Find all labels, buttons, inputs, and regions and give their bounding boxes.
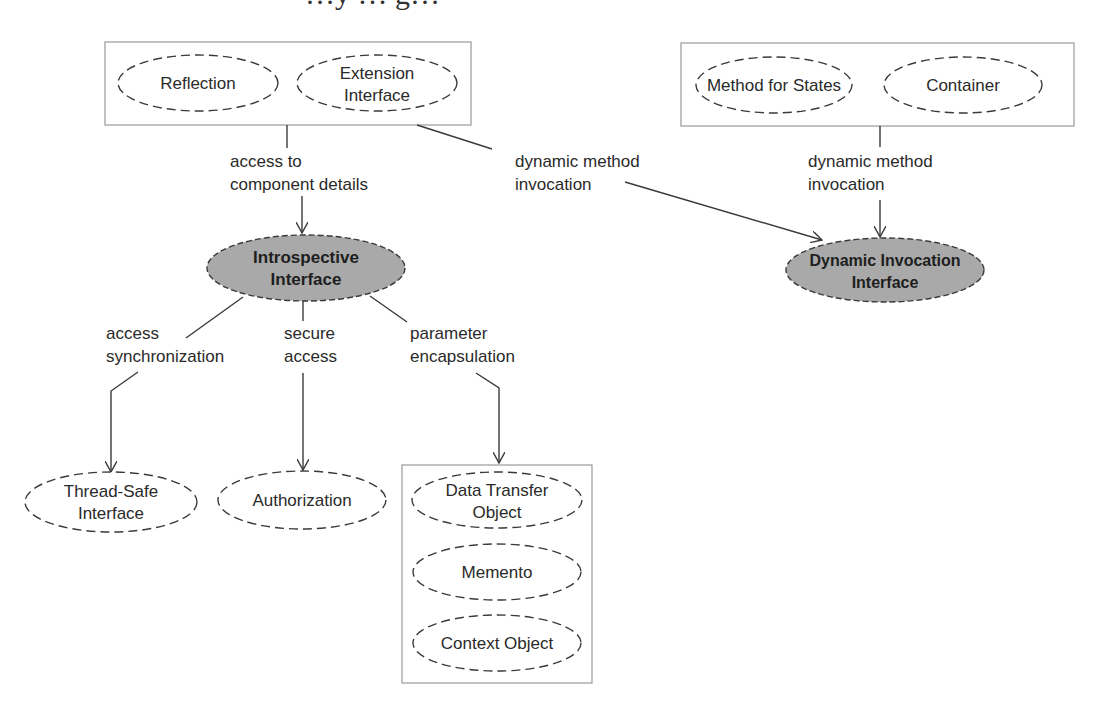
edge-dynamic-method-invocation-left: dynamic method invocation: [417, 125, 822, 240]
node-data-transfer-object[interactable]: Data Transfer Object: [412, 472, 582, 528]
edge-access-to-component-details: access to component details: [230, 125, 368, 233]
node-label: Method for States: [707, 76, 841, 95]
node-dynamic-invocation-interface[interactable]: Dynamic Invocation Interface: [786, 238, 984, 302]
edge-label-line1: dynamic method: [808, 152, 933, 171]
filled-ellipse: [207, 235, 405, 301]
node-extension-interface[interactable]: Extension Interface: [297, 55, 457, 111]
node-label: Reflection: [160, 74, 236, 93]
node-label: Container: [926, 76, 1000, 95]
node-container[interactable]: Container: [884, 57, 1042, 113]
edge-label-line1: parameter: [410, 324, 488, 343]
group-top-right: Method for States Container: [681, 43, 1074, 126]
group-top-left: Reflection Extension Interface: [105, 42, 471, 125]
pattern-relationship-diagram: …y … g… Reflection Extension Interface M…: [0, 0, 1107, 709]
title-fragment: …y … g…: [305, 0, 440, 10]
node-label-line2: Object: [472, 503, 521, 522]
filled-ellipse: [786, 238, 984, 302]
edge-access-synchronization: access synchronization: [106, 297, 243, 472]
edge-label-line2: invocation: [515, 175, 592, 194]
node-introspective-interface[interactable]: Introspective Interface: [207, 235, 405, 301]
edge-label-line2: invocation: [808, 175, 885, 194]
edge-label-line1: secure: [284, 324, 335, 343]
node-label-line2: Interface: [271, 270, 342, 289]
node-label-line1: Dynamic Invocation: [809, 252, 960, 269]
edge-label-line2: component details: [230, 175, 368, 194]
edge-secure-access: secure access: [284, 301, 337, 470]
node-label-line2: Interface: [344, 86, 410, 105]
node-method-for-states[interactable]: Method for States: [696, 57, 852, 113]
node-label-line1: Thread-Safe: [64, 482, 159, 501]
edge-arrow: [111, 372, 138, 472]
edge-line: [417, 125, 492, 149]
node-label: Authorization: [252, 491, 351, 510]
edge-label-line2: access: [284, 347, 337, 366]
edge-label-line1: dynamic method: [515, 152, 640, 171]
node-label-line1: Data Transfer: [446, 481, 549, 500]
node-label: Memento: [462, 563, 533, 582]
edge-parameter-encapsulation: parameter encapsulation: [370, 296, 515, 463]
node-label-line2: Interface: [78, 504, 144, 523]
node-label-line2: Interface: [852, 274, 919, 291]
edge-line: [370, 296, 407, 322]
node-label: Context Object: [441, 634, 554, 653]
node-context-object[interactable]: Context Object: [413, 615, 581, 671]
edge-line: [186, 297, 243, 338]
node-reflection[interactable]: Reflection: [118, 55, 278, 111]
node-label-line1: Introspective: [253, 248, 359, 267]
node-authorization[interactable]: Authorization: [218, 471, 386, 529]
dashed-ellipse: [25, 472, 197, 532]
edge-label-line2: synchronization: [106, 347, 224, 366]
edge-label-line1: access to: [230, 152, 302, 171]
node-memento[interactable]: Memento: [413, 544, 581, 600]
edge-label-line2: encapsulation: [410, 347, 515, 366]
edge-dynamic-method-invocation-right: dynamic method invocation: [808, 126, 933, 237]
edge-arrow: [476, 373, 499, 463]
node-label-line1: Extension: [340, 64, 415, 83]
edge-label-line1: access: [106, 324, 159, 343]
group-bottom-right: Data Transfer Object Memento Context Obj…: [402, 465, 592, 683]
node-thread-safe-interface[interactable]: Thread-Safe Interface: [25, 472, 197, 532]
cropped-title: …y … g…: [305, 0, 440, 10]
edge-arrow: [625, 182, 822, 240]
